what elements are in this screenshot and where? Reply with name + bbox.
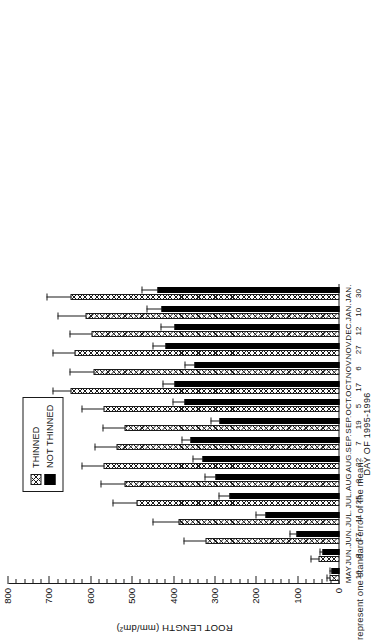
y-tick-label: 400 [167, 588, 178, 604]
y-axis-label: ROOT LENGTH (mm/dm²) [115, 623, 231, 634]
y-tick-major: 600 [90, 576, 91, 584]
error-bar [310, 559, 319, 560]
bar-not-thinned [322, 549, 339, 555]
y-tick-major: 500 [131, 576, 132, 584]
error-bar [218, 496, 230, 497]
plot-area: 0100200300400500600700800 MAY16JUN.8JUN.… [8, 284, 339, 584]
error-bar [52, 353, 75, 354]
y-tick-minor [65, 579, 66, 584]
category-month: JAN. [343, 284, 352, 302]
category-label: JUN.27 [343, 528, 362, 547]
y-tick-minor [40, 579, 41, 584]
error-bar [181, 439, 191, 440]
y-tick-minor [280, 579, 281, 584]
y-tick-label: 800 [2, 588, 13, 604]
y-axis-label-text: ROOT LENGTH (mm/dm²) [115, 623, 231, 634]
y-tick-label: 600 [84, 588, 95, 604]
y-tick-minor [156, 579, 157, 584]
y-tick-minor [81, 579, 82, 584]
bar-group: JUL.25 [136, 490, 339, 509]
y-tick-major: 300 [214, 576, 215, 584]
error-bar [94, 446, 117, 447]
error-bar [329, 571, 331, 572]
y-tick-label: 500 [126, 588, 137, 604]
bar-thinned [70, 388, 339, 394]
y-tick-minor [305, 579, 306, 584]
legend-item-thinned: THINNED [28, 405, 42, 485]
bar-thinned [205, 538, 339, 544]
bar-thinned [91, 331, 339, 337]
category-month: NOV. [343, 340, 352, 360]
y-tick-major: 200 [255, 576, 256, 584]
y-tick-minor [164, 579, 165, 584]
y-tick-minor [73, 579, 74, 584]
error-bar [81, 465, 104, 466]
category-month: OCT. [343, 396, 352, 415]
bar-thinned [70, 294, 339, 300]
legend-item-not-thinned: NOT THINNED [42, 405, 56, 485]
category-label: NOV.6 [343, 359, 362, 379]
error-bar [192, 458, 204, 459]
category-month: DEC. [343, 321, 352, 341]
error-bar [172, 402, 185, 403]
y-tick-minor [206, 579, 207, 584]
category-label: SEP.19 [343, 416, 362, 434]
error-bar [69, 371, 94, 372]
error-bar [69, 334, 92, 335]
bar-not-thinned [165, 343, 339, 349]
error-bar [326, 578, 329, 579]
bar-thinned [136, 500, 339, 506]
bar-group: NOV.6 [93, 359, 339, 378]
error-bar [319, 552, 323, 553]
bar-not-thinned [184, 399, 339, 405]
bar-not-thinned [190, 437, 339, 443]
bar-group: OCT.5 [103, 397, 339, 416]
bar-not-thinned [174, 324, 340, 330]
category-month: JUN. [343, 547, 352, 566]
category-label: MAY16 [343, 566, 362, 583]
bar-thinned [124, 481, 339, 487]
category-month: JUL. [343, 510, 352, 527]
bar-group: OCT.17 [70, 378, 339, 397]
error-bar [146, 308, 163, 309]
y-tick-label: 100 [291, 588, 302, 604]
category-month: NOV. [343, 359, 352, 379]
y-tick-minor [197, 579, 198, 584]
bar-thinned [318, 556, 339, 562]
category-month: JAN. [343, 303, 352, 321]
error-bar [152, 346, 166, 347]
category-month: AUG. [343, 452, 352, 472]
bar-thinned [103, 463, 339, 469]
y-tick-minor [148, 579, 149, 584]
error-bar [100, 484, 125, 485]
bar-thinned [85, 313, 339, 319]
bar-thinned [124, 425, 339, 431]
bar-group: JUN.8 [318, 547, 339, 566]
error-bar [210, 421, 220, 422]
y-tick-major: 800 [7, 576, 8, 584]
y-tick-minor [222, 579, 223, 584]
error-bar [162, 383, 174, 384]
category-label: JUN.8 [343, 547, 362, 566]
error-bar [46, 296, 71, 297]
bar-group: MAY16 [329, 565, 339, 584]
error-bar [102, 428, 125, 429]
category-label: OCT.5 [343, 396, 362, 415]
y-tick-major: 100 [297, 576, 298, 584]
y-tick-label: 300 [208, 588, 219, 604]
bar-group: JUL.11 [178, 509, 339, 528]
category-label: JUL.11 [343, 510, 362, 527]
category-label: AUG.8 [343, 471, 362, 491]
category-month: AUG. [343, 471, 352, 491]
error-bar [184, 364, 196, 365]
y-tick-minor [321, 579, 322, 584]
y-tick-minor [24, 579, 25, 584]
y-tick-minor [57, 579, 58, 584]
bar-not-thinned [219, 418, 339, 424]
bar-group: SEP.19 [124, 415, 339, 434]
bar-not-thinned [194, 362, 339, 368]
bar-group: SEP.7 [116, 434, 339, 453]
error-bar [255, 514, 265, 515]
y-tick-minor [264, 579, 265, 584]
y-tick-minor [288, 579, 289, 584]
